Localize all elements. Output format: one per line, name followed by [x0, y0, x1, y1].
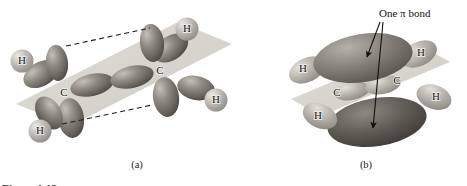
panel-a: C C H H H H (a) [11, 18, 233, 172]
panel-a-label: (a) [131, 159, 143, 171]
ethylene-bonding-figure: C C H H H H (a) C [0, 0, 467, 186]
carbon-label-a-left: C [60, 86, 67, 98]
hydrogen-label-a-1: H [18, 54, 26, 66]
pi-bond-annotation: One π bond [379, 7, 431, 19]
hydrogen-label-a-3: H [183, 22, 191, 34]
hydrogen-label-a-2: H [36, 124, 44, 136]
carbon-label-a-right: C [156, 64, 163, 76]
hydrogen-label-b-3: H [417, 46, 425, 58]
panel-b: C C H H H H One π bond (b) [285, 7, 455, 171]
hydrogen-label-b-2: H [314, 109, 322, 121]
hydrogen-label-b-4: H [432, 90, 440, 102]
figure-caption-clipped: Figure 1.13 [2, 182, 57, 186]
carbon-label-b-left: C [333, 86, 340, 98]
panel-b-label: (b) [360, 159, 373, 171]
hydrogen-label-b-1: H [299, 62, 307, 74]
carbon-label-b-right: C [393, 74, 400, 86]
hydrogen-label-a-4: H [212, 93, 220, 105]
figure-canvas: C C H H H H (a) C [0, 0, 467, 186]
